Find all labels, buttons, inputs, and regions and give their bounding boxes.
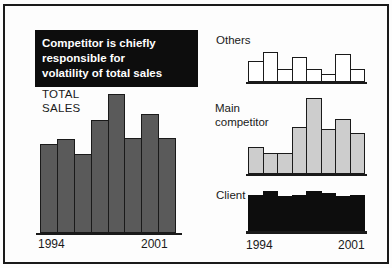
main-competitor-bar-2001 [350,133,366,174]
client-bar-2000 [335,196,351,231]
total-sales-axis-line [36,233,182,235]
total-sales-chart [40,94,176,233]
others-chart-label: Others [216,33,251,47]
total-sales-bar-1997 [91,120,109,233]
client-bar-1997 [292,195,308,231]
others-bar-1999 [321,74,337,82]
total-sales-bar-1995 [57,139,75,233]
others-bar-1998 [306,69,322,82]
total-sales-bar-1999 [124,138,142,233]
headline-box: Competitor is chiefly responsible for vo… [35,30,198,87]
main-competitor-bar-1995 [263,153,279,174]
others-bar-2000 [335,54,351,82]
others-bar-1997 [292,57,308,82]
headline-line-3: volatility of total sales [42,66,198,81]
main-competitor-bar-1997 [292,127,308,174]
total-sales-bar-1998 [108,94,126,233]
others-bar-1996 [277,69,293,82]
total-sales-tick-2001: 2001 [141,237,168,251]
main-competitor-axis-line [246,174,367,176]
headline-line-2: responsible for [42,51,198,66]
client-bar-1996 [277,196,293,231]
client-chart [248,191,365,231]
chart-slide: Competitor is chiefly responsible for vo… [0,0,392,268]
others-chart [248,52,365,82]
client-axis-line [246,231,367,234]
headline-line-1: Competitor is chiefly [42,36,198,51]
others-bar-2001 [350,69,366,82]
others-bar-1995 [263,52,279,82]
main-competitor-bar-1996 [277,153,293,174]
total-sales-bar-1996 [74,154,92,233]
main-competitor-bar-1999 [321,129,337,174]
total-sales-bar-2000 [141,114,159,233]
client-bar-1994 [248,195,264,231]
main-competitor-bar-2000 [335,119,351,174]
main-competitor-bar-1994 [248,147,264,174]
others-bar-1994 [248,61,264,82]
client-bar-1999 [321,193,337,231]
total-sales-tick-1994: 1994 [38,237,65,251]
total-sales-bar-2001 [158,138,176,233]
client-tick-2001: 2001 [338,238,365,252]
client-bar-1998 [306,191,322,231]
client-tick-1994: 1994 [246,238,273,252]
client-bar-2001 [350,195,366,231]
client-chart-label: Client [216,188,245,202]
main-competitor-bar-1998 [306,98,322,174]
main-competitor-chart [248,98,365,174]
total-sales-bar-1994 [40,144,58,233]
others-axis-line [246,82,367,84]
client-bar-1995 [263,191,279,231]
